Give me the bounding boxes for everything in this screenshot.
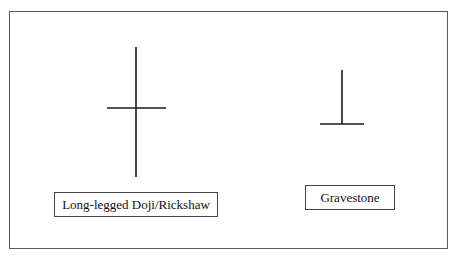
- long-legged-doji-label: Long-legged Doji/Rickshaw: [54, 192, 218, 217]
- candlestick-patterns: [0, 0, 457, 258]
- long-legged-doji-candle: [107, 47, 166, 177]
- gravestone-candle: [320, 70, 364, 124]
- long-legged-doji-label-text: Long-legged Doji/Rickshaw: [62, 197, 210, 213]
- gravestone-label-text: Gravestone: [320, 190, 379, 206]
- gravestone-label: Gravestone: [305, 185, 395, 210]
